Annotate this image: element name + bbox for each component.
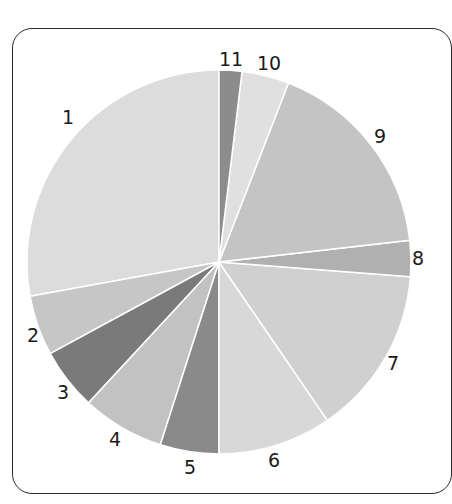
- slice-label-10: 10: [257, 52, 281, 74]
- pie-slice-1: [27, 70, 219, 296]
- slice-label-8: 8: [412, 247, 424, 269]
- slice-label-3: 3: [57, 381, 69, 403]
- slice-label-6: 6: [268, 449, 280, 471]
- slice-label-9: 9: [374, 125, 386, 147]
- pie-slices: [27, 70, 411, 454]
- slice-label-4: 4: [109, 428, 121, 450]
- slice-label-1: 1: [62, 106, 74, 128]
- slice-label-5: 5: [184, 456, 196, 478]
- slice-label-7: 7: [387, 352, 399, 374]
- slice-label-2: 2: [27, 324, 39, 346]
- slice-label-11: 11: [219, 48, 243, 70]
